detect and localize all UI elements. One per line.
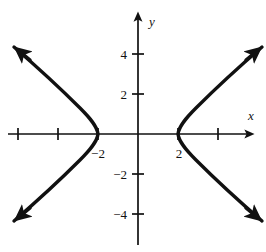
y-tick-label--2: −2: [113, 167, 127, 182]
hyperbola-right-lower-arrowhead: [246, 208, 258, 218]
graph-figure: −2 2 x 4 2 −2 −4 y: [0, 0, 266, 252]
y-axis: 4 2 −2 −4 y: [113, 14, 155, 245]
y-tick-label-4: 4: [121, 47, 128, 62]
hyperbola-right-upper-arrowhead: [246, 50, 258, 60]
x-axis: −2 2 x: [8, 108, 254, 161]
x-axis-label: x: [247, 108, 254, 123]
y-tick-label-2: 2: [121, 87, 128, 102]
hyperbola-left-upper-arrowhead: [18, 50, 30, 60]
y-axis-label: y: [147, 14, 155, 29]
x-tick-label-2: 2: [176, 146, 183, 161]
hyperbola-left-lower-arrowhead: [18, 208, 30, 218]
y-tick-label--4: −4: [113, 207, 127, 222]
coordinate-plane-svg: −2 2 x 4 2 −2 −4 y: [0, 0, 266, 252]
x-tick-label--2: −2: [91, 146, 105, 161]
